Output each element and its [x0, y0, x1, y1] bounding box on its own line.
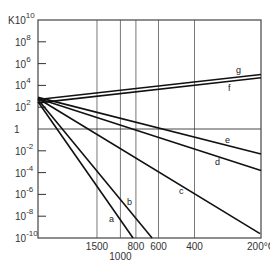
- y-tick-label: 106: [15, 55, 31, 70]
- series-line-a: [38, 102, 133, 238]
- series-label-d: d: [215, 157, 220, 167]
- x-tick-label: 200°C: [247, 241, 270, 252]
- x-tick-label: 600: [150, 241, 167, 252]
- gridlines: [38, 20, 261, 238]
- series-label-c: c: [179, 186, 184, 196]
- series-label-b: b: [127, 197, 132, 207]
- y-axis-ticks: K1010108106104102110-210-410-610-810-10: [8, 11, 46, 244]
- series-line-b: [38, 100, 152, 238]
- equilibrium-constant-chart: K1010108106104102110-210-410-610-810-10 …: [0, 0, 270, 272]
- y-tick-label: 10-8: [15, 207, 34, 222]
- y-tick-label: 108: [15, 33, 31, 48]
- y-tick-label: 104: [15, 76, 31, 91]
- y-tick-label: 10-2: [15, 142, 34, 157]
- series-label-e: e: [225, 135, 230, 145]
- series-label-g: g: [236, 65, 241, 75]
- y-tick-label: 10-4: [15, 164, 34, 179]
- series-line-e: [38, 97, 261, 154]
- x-tick-label: 800: [128, 241, 145, 252]
- y-tick-label: 102: [15, 98, 31, 113]
- y-tick-label: 10-10: [15, 229, 38, 244]
- x-axis-ticks: 15001000800600400200°C: [86, 241, 270, 262]
- x-tick-label: 1500: [86, 241, 109, 252]
- y-tick-label: 1: [14, 124, 20, 135]
- series-lines: [38, 75, 261, 239]
- x-tick-label: 1000: [109, 251, 132, 262]
- series-line-c: [38, 98, 260, 233]
- series-label-f: f: [228, 83, 231, 93]
- x-tick-label: 400: [186, 241, 203, 252]
- y-tick-label: 10-6: [15, 185, 34, 200]
- series-label-a: a: [109, 214, 114, 224]
- y-tick-label: K1010: [8, 11, 35, 26]
